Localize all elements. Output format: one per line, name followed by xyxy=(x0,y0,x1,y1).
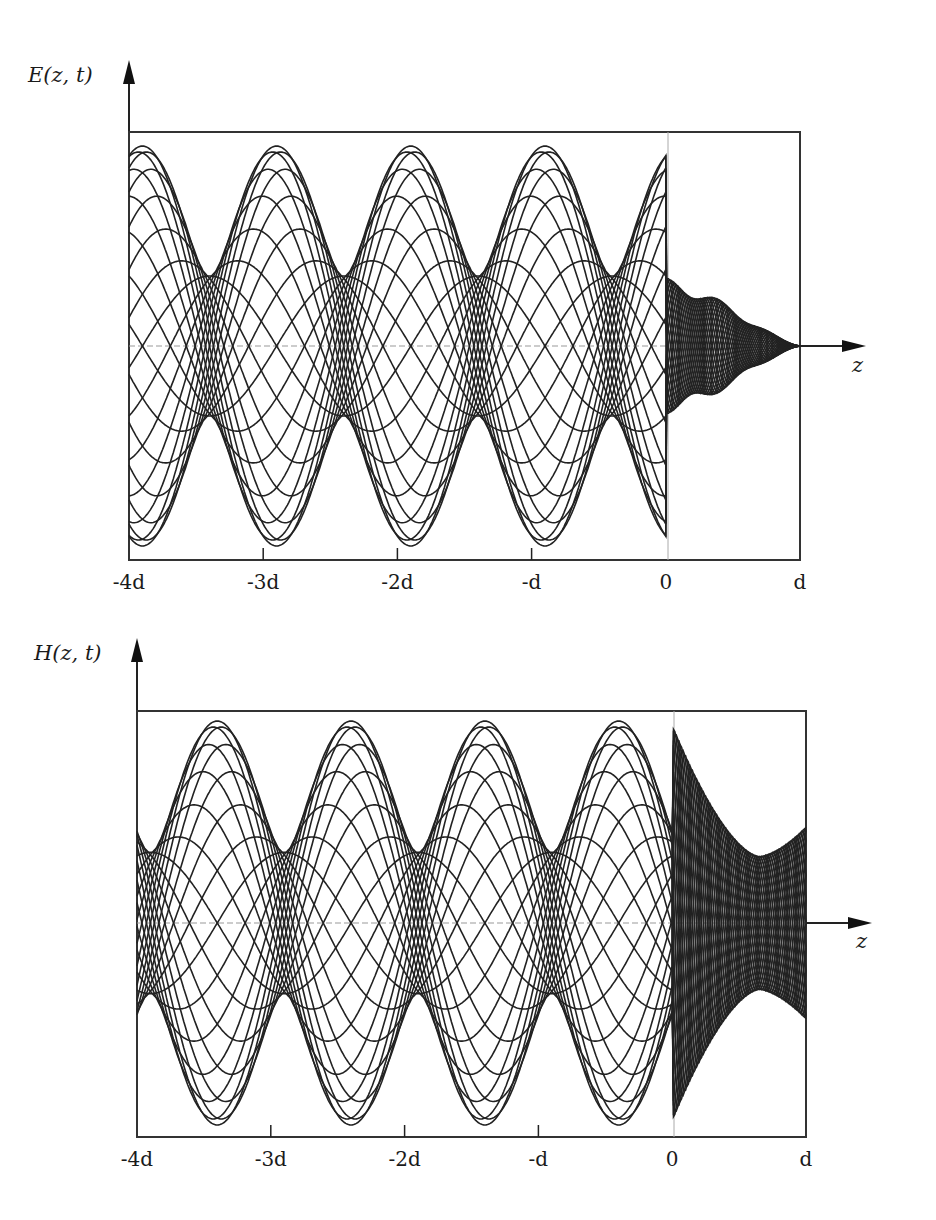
e-field-plot: E(z, t) z -4d-3d-2d-d0d xyxy=(27,60,866,594)
tick-label: d xyxy=(800,1147,813,1171)
tick-label: -2d xyxy=(381,570,413,594)
tick-label: -2d xyxy=(388,1147,420,1171)
figure: E(z, t) z -4d-3d-2d-d0d H(z, t) z -4d-3d… xyxy=(0,0,936,1220)
y-axis-arrow-icon xyxy=(131,638,143,662)
z-axis-arrow-icon xyxy=(842,340,866,352)
h-field-plot: H(z, t) z -4d-3d-2d-d0d xyxy=(33,638,872,1171)
z-axis-label: z xyxy=(851,353,864,377)
tick-label: -3d xyxy=(255,1147,287,1171)
z-axis-arrow-icon xyxy=(848,917,872,929)
x-ticks: -4d-3d-2d-d0d xyxy=(113,548,807,594)
tick-label: -3d xyxy=(247,570,279,594)
y-axis-arrow-icon xyxy=(123,60,135,84)
tick-label: 0 xyxy=(666,1147,679,1171)
tick-label: -d xyxy=(529,1147,549,1171)
tick-label: -d xyxy=(522,570,542,594)
tick-label: -4d xyxy=(113,570,145,594)
tick-label: d xyxy=(794,570,807,594)
e-field-y-label: E(z, t) xyxy=(27,63,93,87)
tick-label: 0 xyxy=(659,570,672,594)
x-ticks: -4d-3d-2d-d0d xyxy=(121,1125,813,1171)
tick-label: -4d xyxy=(121,1147,153,1171)
z-axis-label: z xyxy=(855,929,868,953)
h-field-y-label: H(z, t) xyxy=(33,641,102,665)
